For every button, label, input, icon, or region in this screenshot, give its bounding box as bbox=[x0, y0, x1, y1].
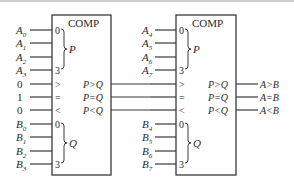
cascade-input-gt-value: 0 bbox=[17, 78, 23, 90]
comparator-1-cascade-inputs: 0 1 0 > = < bbox=[17, 78, 61, 116]
group-label-p: P bbox=[192, 43, 200, 55]
output-label-eq: P=Q bbox=[82, 92, 104, 103]
group-label-q: Q bbox=[69, 137, 77, 149]
group-label-q: Q bbox=[193, 137, 201, 149]
group-label-p: P bbox=[68, 43, 76, 55]
output-label-eq: P=Q bbox=[207, 92, 229, 103]
comparator-2-title: COMP bbox=[192, 17, 223, 29]
comparator-1-outputs: P>Q P=Q P<Q bbox=[82, 79, 104, 116]
pin-3-label: 3 bbox=[179, 65, 184, 76]
input-label-b1: B1 bbox=[16, 131, 26, 146]
comparator-2-outputs: P>Q P=Q P<Q A>B A=B A<B bbox=[207, 79, 279, 116]
pin-lt-label: < bbox=[55, 105, 61, 116]
pin-0-label: 0 bbox=[55, 119, 60, 130]
pin-3-label: 3 bbox=[55, 65, 60, 76]
pin-gt-label: > bbox=[55, 79, 61, 90]
input-label-a7: A7 bbox=[141, 64, 153, 79]
comparator-1: COMP A0 A1 A2 A3 0 3 P 0 1 0 > = < bbox=[15, 15, 111, 175]
input-label-a3: A3 bbox=[15, 64, 27, 79]
output-label-gt: P>Q bbox=[82, 79, 104, 90]
pin-lt-label: < bbox=[179, 105, 185, 116]
comparator-2-cascade-inputs: > = < bbox=[150, 79, 185, 116]
input-label-b5: B5 bbox=[142, 131, 153, 146]
comparator-diagram: COMP A0 A1 A2 A3 0 3 P 0 1 0 > = < bbox=[0, 0, 294, 188]
final-output-a-gt-b: A>B bbox=[259, 79, 279, 90]
input-label-a1: A1 bbox=[15, 37, 26, 52]
input-label-b3: B3 bbox=[16, 158, 27, 173]
cascade-input-lt-value: 0 bbox=[17, 104, 23, 116]
pin-eq-label: = bbox=[55, 92, 61, 103]
cascade-input-eq-value: 1 bbox=[17, 91, 23, 103]
pin-gt-label: > bbox=[179, 79, 185, 90]
pin-0-label: 0 bbox=[179, 25, 184, 36]
output-label-gt: P>Q bbox=[207, 79, 229, 90]
output-label-lt: P<Q bbox=[82, 105, 104, 116]
pin-eq-label: = bbox=[179, 92, 185, 103]
input-label-a5: A5 bbox=[141, 37, 153, 52]
cascade-connections bbox=[111, 84, 150, 110]
final-output-a-lt-b: A<B bbox=[259, 105, 279, 116]
comparator-2: COMP A4 A5 A6 A7 0 3 P > = < P>Q bbox=[141, 15, 279, 175]
final-output-a-eq-b: A=B bbox=[259, 92, 279, 103]
pin-3-label: 3 bbox=[55, 159, 60, 170]
pin-3-label: 3 bbox=[179, 159, 184, 170]
pin-0-label: 0 bbox=[55, 25, 60, 36]
pin-0-label: 0 bbox=[179, 119, 184, 130]
input-label-b7: B7 bbox=[142, 158, 153, 173]
comparator-1-title: COMP bbox=[68, 17, 99, 29]
output-label-lt: P<Q bbox=[207, 105, 229, 116]
